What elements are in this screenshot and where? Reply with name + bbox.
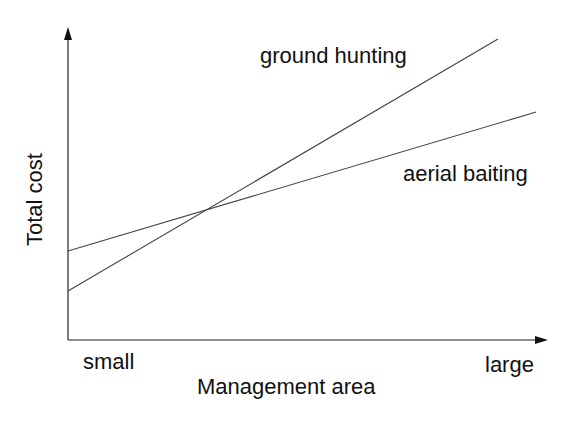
x-axis-title: Management area — [197, 376, 376, 398]
ground-hunting-label: ground hunting — [260, 45, 407, 67]
x-axis-arrow-icon — [535, 336, 548, 344]
y-axis-title: Total cost — [24, 153, 46, 246]
y-axis-arrow-icon — [64, 27, 72, 40]
aerial-baiting-label: aerial baiting — [403, 163, 528, 185]
x-tick-small: small — [83, 351, 134, 373]
x-tick-large: large — [485, 354, 534, 376]
